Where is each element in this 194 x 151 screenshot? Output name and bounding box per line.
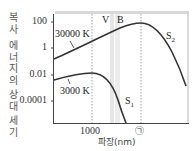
label-v: V <box>102 14 109 25</box>
ytick-0.01: 0.01 <box>17 68 47 79</box>
xtick-circled-a: ㉠ <box>135 124 144 137</box>
xtick-1000: 1000 <box>80 125 100 136</box>
x-axis-label: 파장(nm) <box>98 135 136 148</box>
label-b: B <box>117 14 124 25</box>
s1-sub: 1 <box>131 101 135 109</box>
ytick-100: 100 <box>17 15 47 26</box>
label-3000k: 3000 K <box>60 85 90 96</box>
ytick-1: 1 <box>17 41 47 52</box>
s2-sub: 2 <box>172 36 176 44</box>
label-s2: S2 <box>166 30 175 44</box>
label-30000k: 30000 K <box>55 28 90 39</box>
label-s1: S1 <box>125 95 134 109</box>
ytick-0.0001: 0.0001 <box>17 94 47 105</box>
